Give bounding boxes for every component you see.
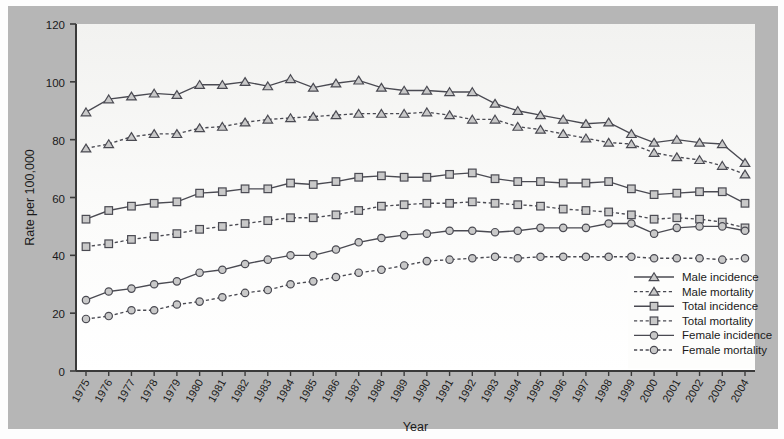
data-point-marker xyxy=(537,178,545,186)
x-tick-label: 2004 xyxy=(728,377,751,404)
data-point-marker xyxy=(378,266,385,273)
data-point-marker xyxy=(514,227,521,234)
data-point-marker xyxy=(514,178,522,186)
legend-label: Total incidence xyxy=(682,300,758,312)
data-point-marker xyxy=(741,199,749,207)
data-point-marker xyxy=(514,201,522,209)
x-tick-label: 1995 xyxy=(524,377,547,404)
data-point-marker xyxy=(309,181,317,189)
x-tick-label: 1978 xyxy=(137,377,160,404)
data-point-marker xyxy=(128,236,136,244)
data-point-marker xyxy=(719,223,726,230)
data-point-marker xyxy=(696,255,703,262)
x-axis-ticks: 1975197619771978197919801981198219831984… xyxy=(69,371,751,404)
data-point-marker xyxy=(469,198,477,206)
data-point-marker xyxy=(219,266,226,273)
data-point-marker xyxy=(264,185,272,193)
x-tick-label: 1998 xyxy=(592,377,615,404)
x-tick-label: 1985 xyxy=(296,377,319,404)
x-tick-label: 1976 xyxy=(92,377,115,404)
x-axis-label: Year xyxy=(403,420,428,434)
data-point-marker xyxy=(582,179,590,187)
data-point-marker xyxy=(400,231,407,238)
legend-label: Female mortality xyxy=(682,344,767,356)
data-point-marker xyxy=(559,179,567,187)
data-point-marker xyxy=(264,256,271,263)
x-tick-label: 1975 xyxy=(69,377,92,404)
data-point-marker xyxy=(400,201,408,209)
legend-item-female-incidence[interactable]: Female incidence xyxy=(634,329,772,341)
x-tick-label: 2001 xyxy=(660,377,683,404)
data-point-marker xyxy=(400,173,408,181)
legend-item-total-mortality[interactable]: Total mortality xyxy=(634,315,753,327)
data-point-marker xyxy=(605,208,613,216)
data-point-marker xyxy=(650,191,658,199)
data-point-marker xyxy=(628,185,636,193)
data-point-marker xyxy=(673,255,680,262)
data-point-marker xyxy=(559,205,567,213)
legend-label: Male mortality xyxy=(682,286,754,298)
x-tick-label: 1997 xyxy=(569,377,592,404)
data-point-marker xyxy=(423,257,430,264)
y-tick-label: 40 xyxy=(52,250,65,262)
data-point-marker xyxy=(219,294,226,301)
legend-item-female-mortality[interactable]: Female mortality xyxy=(634,344,767,356)
data-point-marker xyxy=(446,199,454,207)
data-point-marker xyxy=(423,173,431,181)
data-point-marker xyxy=(173,230,181,238)
data-point-marker xyxy=(741,255,748,262)
x-tick-label: 1983 xyxy=(251,377,274,404)
data-point-marker xyxy=(150,281,157,288)
y-axis-label-text: Rate per 100,000 xyxy=(23,149,37,246)
data-point-marker xyxy=(560,253,567,260)
data-point-marker xyxy=(82,296,89,303)
legend-label: Female incidence xyxy=(682,329,772,341)
y-tick-label: 80 xyxy=(52,135,65,147)
x-tick-label: 1991 xyxy=(433,377,456,404)
data-point-marker xyxy=(378,172,386,180)
data-point-marker xyxy=(446,227,453,234)
data-point-marker xyxy=(287,179,295,187)
data-point-marker xyxy=(219,188,227,196)
x-tick-label: 1980 xyxy=(183,377,206,404)
legend: Male incidenceMale mortalityTotal incide… xyxy=(628,267,772,369)
x-tick-label: 1999 xyxy=(614,377,637,404)
data-point-marker xyxy=(332,273,339,280)
data-point-marker xyxy=(196,189,204,197)
data-point-marker xyxy=(105,240,113,248)
x-tick-label: 1982 xyxy=(228,377,251,404)
data-point-marker xyxy=(173,198,181,206)
data-point-marker xyxy=(696,215,704,223)
data-point-marker xyxy=(82,215,90,223)
x-axis-label-text: Year xyxy=(403,420,428,434)
data-point-marker xyxy=(196,298,203,305)
data-point-marker xyxy=(241,220,249,228)
data-point-marker xyxy=(673,214,681,222)
data-point-marker xyxy=(446,171,454,179)
data-point-marker xyxy=(650,346,657,353)
legend-label: Male incidence xyxy=(682,271,759,283)
y-tick-label: 60 xyxy=(52,193,65,205)
data-point-marker xyxy=(332,178,340,186)
data-point-marker xyxy=(650,215,658,223)
data-point-marker xyxy=(650,255,657,262)
data-point-marker xyxy=(355,269,362,276)
data-point-marker xyxy=(537,224,544,231)
data-point-marker xyxy=(628,253,635,260)
y-axis-ticks: 020406080100120 xyxy=(46,19,76,378)
x-tick-label: 1996 xyxy=(546,377,569,404)
data-point-marker xyxy=(469,227,476,234)
y-axis-label: Rate per 100,000 xyxy=(23,149,37,246)
data-point-marker xyxy=(469,255,476,262)
y-tick-label: 20 xyxy=(52,308,65,320)
data-point-marker xyxy=(491,199,499,207)
data-point-marker xyxy=(264,286,271,293)
data-point-marker xyxy=(514,255,521,262)
x-tick-label: 1993 xyxy=(478,377,501,404)
data-point-marker xyxy=(287,281,294,288)
data-point-marker xyxy=(241,289,248,296)
legend-item-total-incidence[interactable]: Total incidence xyxy=(634,300,758,312)
data-point-marker xyxy=(355,173,363,181)
data-point-marker xyxy=(310,252,317,259)
figure-container: 020406080100120 197519761977197819791980… xyxy=(0,0,784,439)
